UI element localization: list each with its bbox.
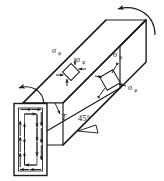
sigma-label-left-upper: σ xyxy=(52,46,57,55)
cross-section-inner-wall xyxy=(19,108,43,171)
stress-element-left-label-upper: σ φ xyxy=(52,46,61,56)
sigma-label-right-lower: σ xyxy=(128,83,133,92)
diagram-canvas: T 45° σ φ σ φ xyxy=(0,0,164,181)
sigma-sub-left-upper: φ xyxy=(58,50,61,56)
torsion-diagram-figure: T 45° σ φ σ φ xyxy=(0,0,164,181)
sigma-sub-left-lower: φ xyxy=(82,59,85,65)
sigma-sub-right-upper: φ xyxy=(119,54,122,60)
cross-section-group xyxy=(14,104,47,176)
angle-label: 45° xyxy=(78,114,90,123)
stress-element-right-label-lower: σ φ xyxy=(128,83,137,93)
sigma-sub-right-lower: φ xyxy=(134,87,137,93)
